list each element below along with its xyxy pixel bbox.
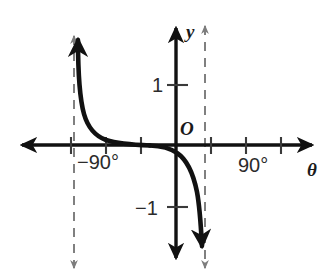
y-tick-label-one: 1 bbox=[152, 75, 163, 95]
x-tick-label-negative-90: −90° bbox=[77, 152, 119, 172]
curve-left-branch bbox=[78, 40, 150, 146]
graph-figure: y θ O −90° 90° 1 −1 bbox=[0, 0, 333, 279]
y-axis-label: y bbox=[186, 22, 194, 41]
theta-axis-label: θ bbox=[307, 160, 317, 179]
origin-label: O bbox=[180, 119, 194, 138]
graph-canvas bbox=[0, 0, 333, 279]
y-tick-label-negative-one: −1 bbox=[135, 198, 158, 218]
x-tick-label-positive-90: 90° bbox=[238, 155, 268, 175]
